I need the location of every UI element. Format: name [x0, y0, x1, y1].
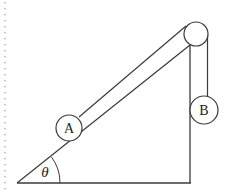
block-a-label: A [64, 121, 75, 136]
angle-arc [52, 157, 61, 183]
pulley-icon [184, 22, 208, 46]
rope-segment-incline [79, 26, 186, 117]
incline-surface-line [17, 45, 190, 183]
block-b-label: B [199, 103, 208, 118]
angle-theta-label: θ [41, 164, 49, 180]
incline-pulley-diagram: A B θ [0, 0, 230, 193]
diagram-canvas: A B θ [0, 0, 230, 193]
